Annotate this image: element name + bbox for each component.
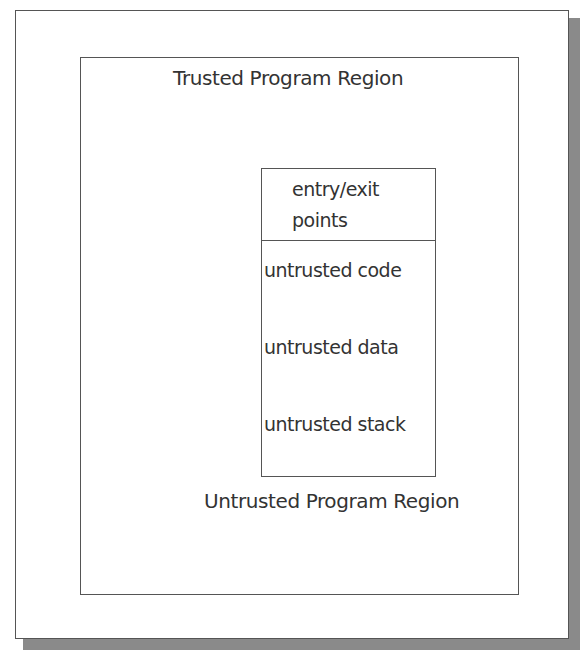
entry-exit-label-line2: points	[292, 209, 347, 231]
untrusted-stack-label: untrusted stack	[264, 413, 405, 435]
entry-exit-divider	[261, 240, 436, 241]
entry-exit-label-line1: entry/exit	[292, 178, 379, 200]
untrusted-code-label: untrusted code	[264, 259, 401, 281]
trusted-region-label: Trusted Program Region	[173, 66, 403, 90]
untrusted-region-label: Untrusted Program Region	[204, 489, 459, 513]
untrusted-data-label: untrusted data	[264, 336, 398, 358]
